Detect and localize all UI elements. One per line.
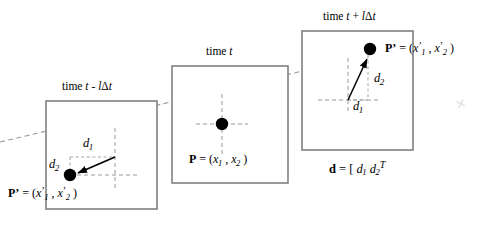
p-current-equals: = ( bbox=[196, 152, 213, 166]
frame-title-previous: time t - lΔt bbox=[62, 81, 112, 93]
d1-next-sub: 1 bbox=[359, 105, 364, 115]
d2-label-previous: d2 bbox=[49, 158, 59, 173]
d2-next-sub: 2 bbox=[380, 77, 385, 87]
d1-label-next: d1 bbox=[353, 100, 363, 115]
frame-title-previous-var2: t bbox=[109, 80, 112, 92]
frame-title-current: time t bbox=[206, 46, 233, 58]
frame-title-current-var1: t bbox=[229, 45, 232, 57]
dvec-d1-sub: 1 bbox=[362, 167, 366, 177]
p-prime-next-comma: , bbox=[426, 41, 435, 55]
frame-title-previous-text: time bbox=[62, 80, 85, 92]
frame-title-previous-minus: - bbox=[89, 80, 99, 92]
d2-label-next: d2 bbox=[374, 72, 384, 87]
dvec-equals: = [ bbox=[336, 162, 357, 176]
frame-title-next-text: time bbox=[323, 10, 346, 22]
frame-title-next-var2: t bbox=[372, 10, 375, 22]
point-label-p-prime-next: P’ = (x’1 , x’2 ) bbox=[385, 41, 454, 56]
d2-previous-sub: 2 bbox=[55, 163, 60, 173]
frame-title-next: time t + lΔt bbox=[323, 11, 376, 23]
point-label-p-current: P = (x1 , x2 ) bbox=[189, 153, 247, 167]
point-p-current bbox=[216, 118, 228, 130]
displacement-vector-equation: d = [ d1 d2T bbox=[329, 160, 385, 177]
frame-title-next-plus: + bbox=[350, 10, 362, 22]
p-prime-previous-close: ) bbox=[70, 186, 77, 200]
p-current-close: ) bbox=[240, 152, 247, 166]
point-p-prime-next bbox=[364, 43, 376, 55]
p-prime-next-equals: = ( bbox=[396, 41, 413, 55]
p-prime-previous-comma: , bbox=[49, 186, 58, 200]
point-p-prime-previous bbox=[64, 169, 76, 181]
d1-previous-sub: 1 bbox=[89, 142, 94, 152]
dvec-symbol: d bbox=[329, 162, 336, 176]
p-current-comma: , bbox=[222, 152, 231, 166]
p-prime-next-close: ) bbox=[447, 41, 454, 55]
optical-flow-displacement-diagram: time t - lΔt time t time t + lΔt P’ = (x… bbox=[0, 0, 491, 229]
point-label-p-prime-previous: P’ = (x’1 , x’2 ) bbox=[8, 186, 77, 201]
d1-label-previous: d1 bbox=[83, 137, 93, 152]
frame-title-previous-delta: Δ bbox=[101, 80, 108, 92]
dvec-transpose: T bbox=[380, 159, 386, 170]
frame-title-current-text: time bbox=[206, 45, 229, 57]
p-prime-previous-equals: = ( bbox=[19, 186, 36, 200]
